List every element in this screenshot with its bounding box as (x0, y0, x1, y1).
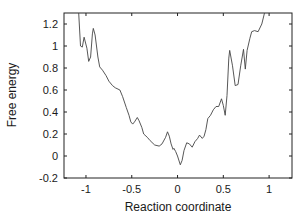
free-energy-chart: -1-0.500.51 -0.200.20.40.60.811.2 Reacti… (0, 0, 304, 221)
x-tick-label: 0.5 (216, 183, 231, 195)
y-tick-label: 0.8 (43, 62, 58, 74)
free-energy-line (79, 13, 265, 165)
x-tick-label: 1 (266, 183, 272, 195)
x-tick-label: -1 (81, 183, 91, 195)
y-tick-label: 0.6 (43, 84, 58, 96)
y-tick-label: 0 (52, 150, 58, 162)
y-axis-ticks: -0.200.20.40.60.811.2 (39, 18, 292, 184)
y-tick-label: 0.2 (43, 128, 58, 140)
y-tick-label: -0.2 (39, 172, 58, 184)
y-tick-label: 0.4 (43, 106, 58, 118)
x-axis-title: Reaction coordinate (125, 200, 232, 214)
x-tick-label: -0.5 (122, 183, 141, 195)
y-tick-label: 1.2 (43, 18, 58, 30)
x-tick-label: 0 (174, 183, 180, 195)
x-axis-ticks: -1-0.500.51 (81, 13, 272, 195)
plot-area: -1-0.500.51 -0.200.20.40.60.811.2 (39, 13, 292, 195)
y-tick-label: 1 (52, 40, 58, 52)
plot-frame (64, 13, 292, 178)
y-axis-title: Free energy (5, 63, 19, 128)
